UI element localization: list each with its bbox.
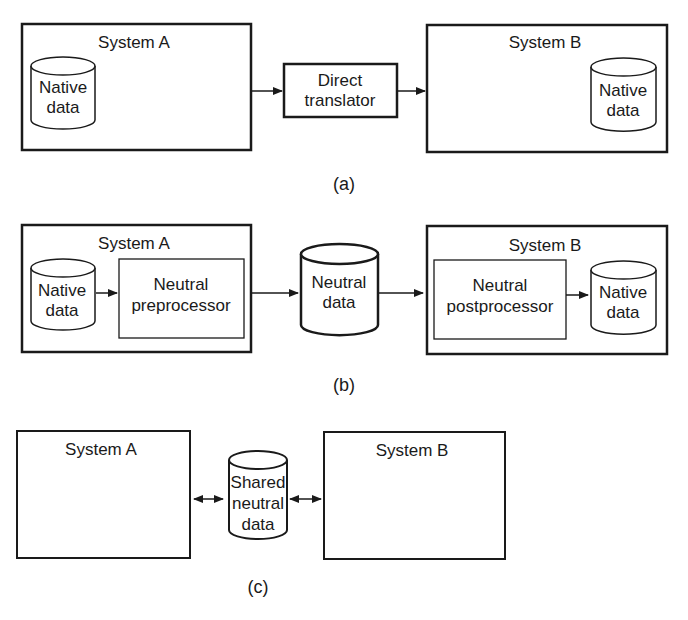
native-data-label-line2: data (606, 303, 640, 322)
data-exchange-diagram: System A Native data Direct translator S… (0, 0, 688, 620)
preprocessor-label-line1: Neutral (154, 275, 209, 294)
system-a-title: System A (98, 33, 170, 52)
native-data-label-line1: Native (38, 281, 86, 300)
native-data-label-line1: Native (599, 283, 647, 302)
neutral-data-cylinder: Neutral data (301, 244, 378, 335)
preprocessor-label-line2: preprocessor (131, 296, 231, 315)
translator-label-line2: translator (305, 91, 376, 110)
system-b-title: System B (376, 441, 449, 460)
caption-b: (b) (333, 375, 355, 395)
native-data-cylinder-b: Native data (591, 261, 656, 334)
native-data-label-line2: data (45, 301, 79, 320)
neutral-data-label-line2: data (322, 293, 356, 312)
native-data-label-line2: data (46, 98, 80, 117)
panel-c: System A Shared neutral data System B (c… (17, 431, 505, 597)
system-a-title: System A (65, 440, 137, 459)
shared-data-label-line2: neutral (232, 494, 284, 513)
system-b-title: System B (509, 33, 582, 52)
caption-a: (a) (333, 174, 355, 194)
postprocessor-label-line2: postprocessor (447, 297, 554, 316)
native-data-cylinder-a: Native data (31, 57, 95, 129)
neutral-data-label-line1: Neutral (312, 273, 367, 292)
shared-data-label-line3: data (241, 515, 275, 534)
native-data-label-line2: data (606, 101, 640, 120)
panel-b: System A Native data Neutral preprocesso… (22, 225, 667, 395)
system-a-title: System A (98, 234, 170, 253)
native-data-cylinder-b: Native data (591, 58, 656, 131)
caption-c: (c) (248, 577, 269, 597)
system-b-title: System B (509, 236, 582, 255)
shared-data-label-line1: Shared (231, 473, 286, 492)
panel-a: System A Native data Direct translator S… (22, 24, 667, 194)
native-data-label-line1: Native (599, 81, 647, 100)
translator-label-line1: Direct (318, 71, 363, 90)
native-data-label-line1: Native (39, 78, 87, 97)
shared-neutral-data-cylinder: Shared neutral data (229, 451, 287, 539)
postprocessor-label-line1: Neutral (473, 276, 528, 295)
native-data-cylinder-a: Native data (31, 259, 95, 330)
